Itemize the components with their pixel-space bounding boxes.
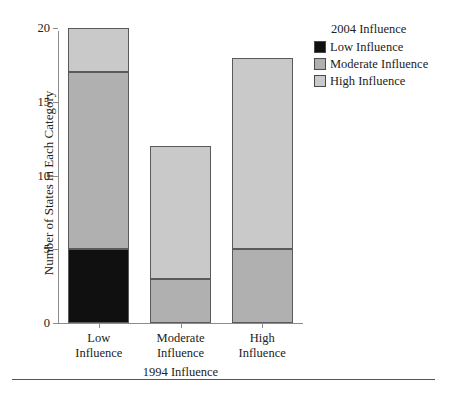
y-axis-title: Number of States in Each Category	[41, 38, 57, 328]
legend-swatch-icon	[314, 75, 326, 87]
legend-entries: Low InfluenceModerate InfluenceHigh Infl…	[314, 39, 446, 89]
bar-segment	[150, 279, 211, 323]
legend-title: 2004 Influence	[331, 22, 446, 37]
y-tick-mark	[53, 249, 58, 250]
bottom-rule	[12, 379, 435, 380]
x-tick-mark	[99, 323, 100, 328]
legend-item[interactable]: Moderate Influence	[314, 56, 446, 72]
y-tick-mark	[53, 102, 58, 103]
x-tick-label-line: Influence	[136, 346, 226, 361]
legend-swatch-icon	[314, 41, 326, 53]
y-tick-label: 20	[38, 21, 51, 36]
x-tick-label: ModerateInfluence	[136, 331, 226, 361]
x-tick-label: LowInfluence	[54, 331, 144, 361]
legend-item[interactable]: Low Influence	[314, 39, 446, 55]
y-tick-label: 5	[44, 242, 50, 257]
x-tick-label-line: Influence	[217, 346, 307, 361]
bar-segment	[68, 249, 129, 323]
legend: 2004 Influence Low InfluenceModerate Inf…	[314, 22, 446, 90]
x-tick-mark	[181, 323, 182, 328]
x-axis-title: 1994 Influence	[58, 365, 303, 380]
bar-segment	[232, 58, 293, 250]
bar-segment	[68, 72, 129, 249]
legend-item[interactable]: High Influence	[314, 73, 446, 89]
legend-label: High Influence	[330, 74, 405, 89]
x-tick-label: HighInfluence	[217, 331, 307, 361]
y-axis-line	[58, 31, 59, 323]
plot-area: 05101520 LowInfluenceModerateInfluenceHi…	[58, 28, 303, 323]
y-tick-mark	[53, 28, 58, 29]
x-tick-mark	[262, 323, 263, 328]
y-tick-mark	[53, 323, 58, 324]
bar	[232, 28, 293, 323]
bar-segment	[150, 146, 211, 279]
legend-swatch-icon	[314, 58, 326, 70]
legend-label: Moderate Influence	[330, 57, 428, 72]
x-tick-label-line: High	[217, 331, 307, 346]
x-tick-label-line: Moderate	[136, 331, 226, 346]
chart-figure: Number of States in Each Category 051015…	[0, 0, 450, 393]
y-tick-label: 10	[38, 168, 51, 183]
bar	[150, 28, 211, 323]
y-tick-mark	[53, 176, 58, 177]
bar-segment	[68, 28, 129, 72]
bar	[68, 28, 129, 323]
legend-label: Low Influence	[330, 40, 403, 55]
x-tick-label-line: Influence	[54, 346, 144, 361]
y-tick-label: 0	[44, 316, 50, 331]
bar-segment	[232, 249, 293, 323]
y-tick-label: 15	[38, 94, 51, 109]
x-tick-label-line: Low	[54, 331, 144, 346]
